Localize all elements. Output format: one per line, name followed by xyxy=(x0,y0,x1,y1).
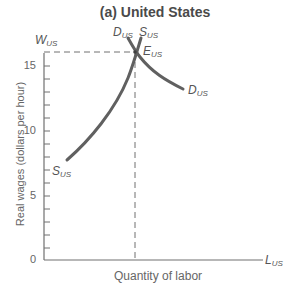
equilibrium-label: EUS xyxy=(143,44,162,59)
supply-curve xyxy=(67,38,141,160)
supply-label-top: SUS xyxy=(139,25,158,40)
y-axis-label: Real wages (dollars per hour) xyxy=(14,64,26,244)
labor-symbol: LUS xyxy=(265,253,283,268)
x-axis-label: Quantity of labor xyxy=(114,269,202,283)
y-ticks xyxy=(44,66,50,248)
wage-symbol: WUS xyxy=(35,33,57,48)
demand-label-top: DUS xyxy=(113,25,133,40)
supply-label-end: SUS xyxy=(52,164,71,179)
equilibrium-point xyxy=(133,50,137,54)
tick-0: 0 xyxy=(16,253,36,265)
demand-label-end: DUS xyxy=(188,83,208,98)
